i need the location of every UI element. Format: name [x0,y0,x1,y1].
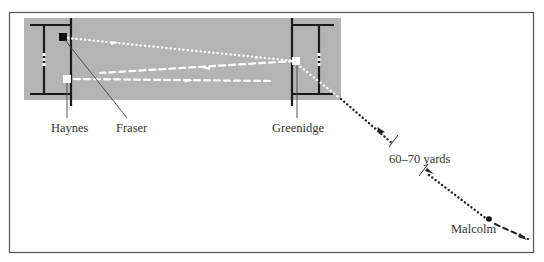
svg-text:×: × [254,54,259,61]
label-fraser: Fraser [116,121,148,135]
right-stumps-icon [318,53,321,66]
fraser-marker [59,33,67,41]
label-haynes: Haynes [51,121,89,135]
left-stumps-icon [43,53,46,66]
cricket-run-out-diagram: × Haynes Fraser Greenidge 60–70 yards Ma… [0,0,544,262]
label-malcolm: Malcolm [451,222,496,236]
greenidge-marker [292,57,300,65]
label-greenidge: Greenidge [272,121,325,135]
label-distance: 60–70 yards [389,152,451,166]
haynes-marker [63,75,71,83]
malcolm-marker [486,216,492,222]
